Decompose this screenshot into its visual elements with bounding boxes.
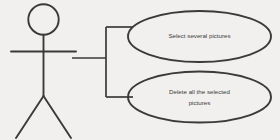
use-case-label-line-1: Delete all the selected (169, 88, 230, 95)
use-case-label-line-2: pictures (189, 99, 211, 106)
use-case-ellipse (128, 72, 271, 123)
actor-leg-right (44, 96, 72, 138)
use-case-select-several-pictures[interactable]: Select several pictures (128, 11, 271, 62)
actor-head-icon (28, 4, 58, 34)
use-case-label-line-1: Select several pictures (168, 32, 230, 39)
association-connectors (72, 27, 133, 97)
actor-leg-left (16, 96, 44, 138)
diagram-canvas: Select several pictures Delete all the s… (0, 0, 280, 140)
actor-stick-figure[interactable] (11, 4, 76, 138)
use-case-delete-all-the-selected-pictures[interactable]: Delete all the selected pictures (128, 72, 271, 123)
use-case-diagram: Select several pictures Delete all the s… (0, 0, 280, 140)
